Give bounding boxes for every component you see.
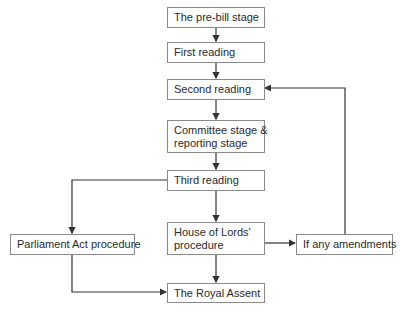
node-label: If any amendments xyxy=(303,238,397,251)
node-label: Parliament Act procedure xyxy=(17,238,141,251)
node-label: Second reading xyxy=(174,83,251,96)
node-label-line1: House of Lords' xyxy=(174,226,251,239)
node-parliament-act: Parliament Act procedure xyxy=(10,234,135,255)
node-label: First reading xyxy=(174,46,235,59)
node-label-line2: procedure xyxy=(174,239,224,252)
node-house-of-lords: House of Lords' procedure xyxy=(167,222,265,255)
node-second-reading: Second reading xyxy=(167,79,265,100)
node-pre-bill-stage: The pre-bill stage xyxy=(167,7,265,28)
node-label-line1: Committee stage & xyxy=(174,124,268,137)
node-royal-assent: The Royal Assent xyxy=(167,283,265,303)
node-first-reading: First reading xyxy=(167,42,265,63)
node-label-line2: reporting stage xyxy=(174,137,247,150)
node-label: The pre-bill stage xyxy=(174,11,259,24)
node-label: Third reading xyxy=(174,174,239,187)
node-if-any-amendments: If any amendments xyxy=(296,234,393,255)
node-committee-stage: Committee stage & reporting stage xyxy=(167,120,265,153)
node-third-reading: Third reading xyxy=(167,170,265,191)
node-label: The Royal Assent xyxy=(174,287,260,300)
